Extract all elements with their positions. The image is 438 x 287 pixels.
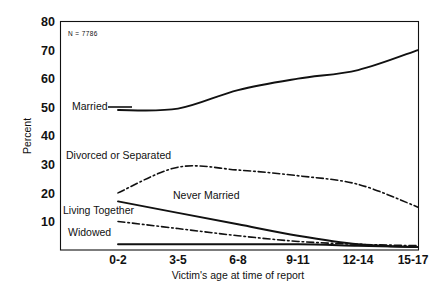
x-tick-12-14: 12-14 [343, 253, 374, 267]
series-line-married [118, 50, 418, 110]
x-axis-tick-labels: 0-2 3-5 6-8 9-11 12-14 15-17 [109, 253, 428, 267]
y-tick-80: 80 [41, 15, 55, 29]
y-axis-tick-labels: 80 70 60 50 40 30 20 10 [41, 15, 55, 229]
y-tick-50: 50 [41, 101, 55, 115]
sample-size-note: N = 7786 [68, 30, 98, 37]
y-axis-title-group: Percent [21, 118, 33, 154]
x-tick-15-17: 15-17 [398, 253, 429, 267]
series-line-living-together [118, 221, 418, 245]
series-label-divorced: Divorced or Separated [66, 149, 171, 161]
series-line-never-married [118, 201, 418, 247]
y-tick-10: 10 [41, 215, 55, 229]
y-tick-60: 60 [41, 72, 55, 86]
y-axis-title: Percent [21, 118, 33, 154]
x-tick-9-11: 9-11 [286, 253, 310, 267]
series-line-divorced-or-separated [118, 166, 418, 207]
x-tick-6-8: 6-8 [229, 253, 247, 267]
y-tick-40: 40 [41, 129, 55, 143]
line-chart-figure: 80 70 60 50 40 30 20 10 Percent N = 7786… [0, 0, 438, 287]
series-label-never-married: Never Married [173, 189, 240, 201]
series-label-widowed: Widowed [68, 226, 111, 238]
chart-container: 80 70 60 50 40 30 20 10 Percent N = 7786… [0, 0, 438, 287]
y-tick-20: 20 [41, 187, 55, 201]
x-axis-title: Victim's age at time of report [172, 269, 305, 281]
y-tick-30: 30 [41, 158, 55, 172]
series-label-married: Married [72, 100, 108, 112]
y-tick-70: 70 [41, 44, 55, 58]
series-label-living-together: Living Together [63, 204, 135, 216]
x-tick-3-5: 3-5 [169, 253, 187, 267]
x-tick-0-2: 0-2 [109, 253, 127, 267]
